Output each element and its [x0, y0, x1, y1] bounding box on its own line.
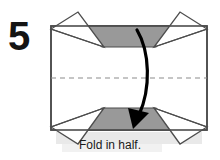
- origami-step-diagram: 5 Fold in half.: [0, 0, 220, 160]
- origami-figure: [0, 0, 220, 160]
- step-caption: Fold in half.: [0, 138, 220, 153]
